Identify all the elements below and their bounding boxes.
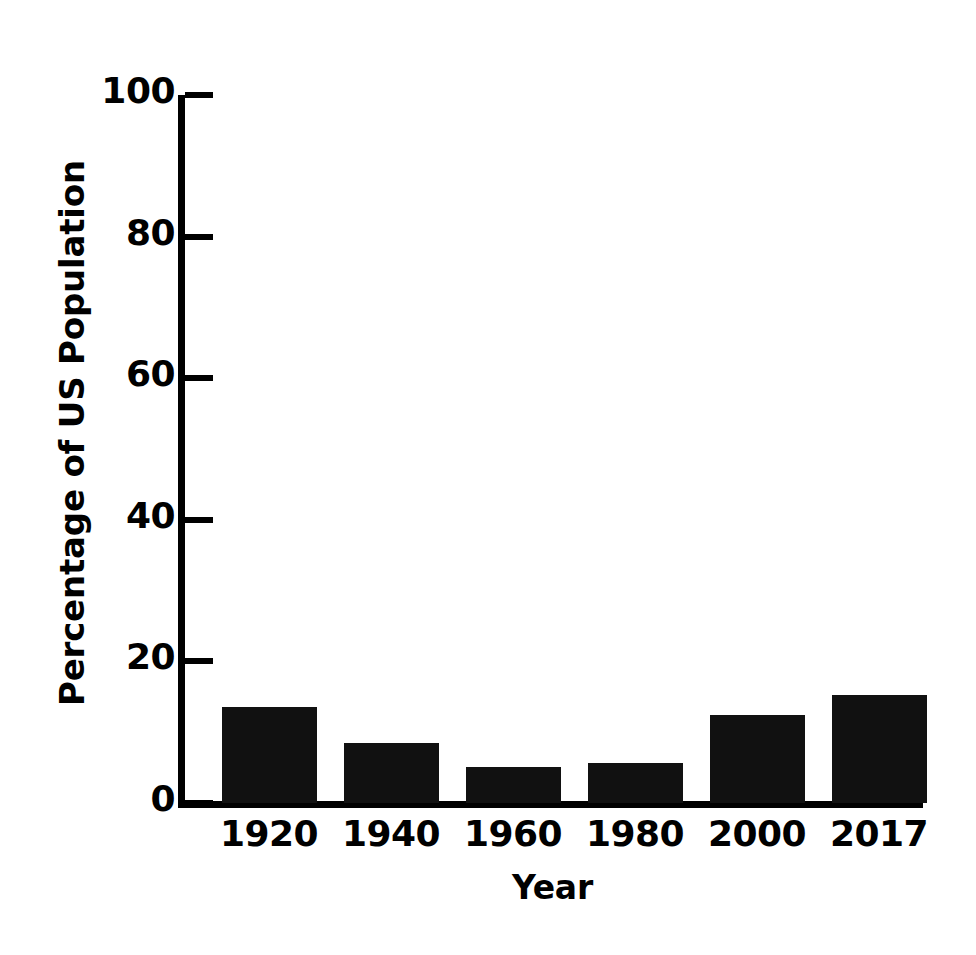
bars-layer	[0, 0, 976, 955]
bar-chart-figure: Percentage of US Population 020406080100…	[0, 0, 976, 955]
x-axis-title: Year	[180, 868, 925, 907]
bar	[710, 715, 805, 803]
bar	[344, 743, 439, 803]
x-axis-tick-label: 2017	[806, 814, 952, 854]
bar	[832, 695, 927, 803]
bar	[466, 767, 561, 803]
bar	[588, 763, 683, 803]
bar	[222, 707, 317, 803]
